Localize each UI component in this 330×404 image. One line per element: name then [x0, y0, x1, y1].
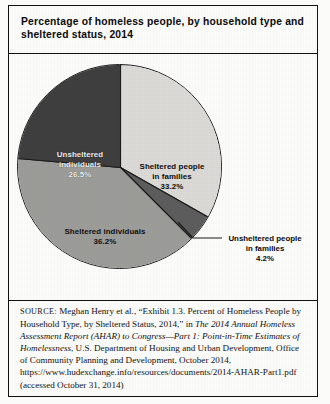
figure-title: Percentage of homeless people, by househ… [21, 15, 307, 41]
slice-label-sheltered-individuals: Sheltered individuals 36.2% [49, 227, 161, 247]
source-divider [9, 300, 317, 301]
slice-label-sheltered-families: Sheltered people in families 33.2% [124, 162, 220, 192]
slice-label-line2: in families [217, 244, 313, 254]
slice-value: 36.2% [49, 237, 161, 247]
source-prefix: SOURCE: [20, 307, 57, 316]
slice-label-unsheltered-individuals: Unsheltered individuals 26.5% [39, 150, 121, 180]
slice-value: 26.5% [39, 170, 121, 180]
slice-label-unsheltered-families: Unsheltered people in families 4.2% [217, 234, 313, 264]
slice-label-line1: Sheltered people [124, 162, 220, 172]
slice-label-line2: in families [124, 172, 220, 182]
slice-label-line2: individuals [39, 160, 121, 170]
slice-label-line1: Unsheltered [39, 150, 121, 160]
source-note: SOURCE: Meghan Henry et al., “Exhibit 1.… [20, 305, 308, 391]
slice-label-line1: Unsheltered people [217, 234, 313, 244]
slice-label-line1: Sheltered individuals [49, 227, 161, 237]
slice-value: 4.2% [217, 254, 313, 264]
figure-container: Percentage of homeless people, by househ… [8, 5, 318, 397]
slice-value: 33.2% [124, 182, 220, 192]
pie-chart: Unsheltered individuals 26.5% Sheltered … [9, 54, 317, 294]
